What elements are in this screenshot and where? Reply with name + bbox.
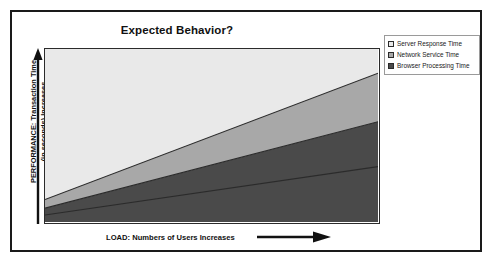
legend-swatch-icon: [388, 63, 394, 69]
stacked-area-series: [45, 49, 378, 222]
right-arrow-icon: [257, 231, 331, 243]
chart-title: Expected Behavior?: [12, 24, 342, 36]
legend-item[interactable]: Network Service Time: [388, 50, 477, 60]
legend-label: Server Response Time: [397, 40, 462, 48]
legend-label: Browser Processing Time: [397, 62, 469, 70]
x-axis-group: LOAD: Numbers of Users Increases: [44, 228, 384, 246]
y-axis-label-line1: PERFORMANCE: Transaction Time: [29, 60, 38, 183]
legend-item[interactable]: Browser Processing Time: [388, 61, 477, 71]
plot-wrap: [44, 48, 380, 224]
chart-legend: Server Response Time Network Service Tim…: [384, 35, 480, 75]
y-axis-group: PERFORMANCE: Transaction Time (in second…: [24, 48, 46, 228]
legend-swatch-icon: [388, 41, 394, 47]
figure-frame: Expected Behavior? Server Response Time …: [10, 10, 482, 252]
legend-item[interactable]: Server Response Time: [388, 39, 477, 49]
plot-area[interactable]: [44, 48, 380, 224]
x-axis-label: LOAD: Numbers of Users Increases: [106, 233, 235, 242]
legend-swatch-icon: [388, 52, 394, 58]
legend-label: Network Service Time: [397, 51, 459, 59]
